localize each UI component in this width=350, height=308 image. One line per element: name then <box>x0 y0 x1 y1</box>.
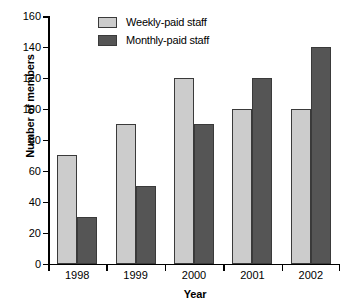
legend-label: Weekly-paid staff <box>126 16 207 28</box>
y-axis-tick-label: 40 <box>11 196 41 208</box>
y-axis-tick-label: 100 <box>11 103 41 115</box>
y-axis-tick-label: 20 <box>11 227 41 239</box>
legend-swatch <box>98 17 117 28</box>
x-axis-tick <box>223 265 225 271</box>
x-axis-tick <box>282 265 284 271</box>
y-axis-tick-label: 0 <box>11 258 41 270</box>
bar <box>77 217 97 263</box>
y-axis-tick-label: 160 <box>11 10 41 22</box>
bar <box>232 109 252 264</box>
y-axis-tick-label: 80 <box>11 134 41 146</box>
x-axis-tick <box>165 265 167 271</box>
legend-item: Monthly-paid staff <box>98 32 209 48</box>
x-axis-tick-label: 1999 <box>123 269 147 281</box>
x-axis-tick <box>106 265 108 271</box>
legend-item: Weekly-paid staff <box>98 14 209 30</box>
legend-swatch <box>98 35 117 46</box>
y-axis-tick <box>43 202 48 204</box>
bar <box>116 124 136 263</box>
x-axis-tick <box>48 265 50 271</box>
x-axis-tick <box>339 265 341 271</box>
bar <box>136 186 156 263</box>
y-axis-tick <box>43 78 48 80</box>
bar <box>57 155 77 263</box>
bar <box>311 47 331 264</box>
bar-chart: Number of members 020406080100120140160 … <box>0 0 350 308</box>
bar <box>291 109 311 264</box>
x-axis-tick-label: 1998 <box>65 269 89 281</box>
x-axis-title: Year <box>45 288 345 300</box>
x-axis-tick-label: 2001 <box>240 269 264 281</box>
y-axis-tick <box>43 140 48 142</box>
y-axis-tick <box>43 233 48 235</box>
y-axis-line <box>48 16 50 265</box>
y-axis-tick-label: 140 <box>11 41 41 53</box>
y-axis-tick-label: 60 <box>11 165 41 177</box>
y-axis-tick-label: 120 <box>11 72 41 84</box>
bar <box>252 78 272 264</box>
y-axis-tick <box>43 16 48 18</box>
legend-label: Monthly-paid staff <box>126 34 209 46</box>
x-axis-tick-label: 2002 <box>299 269 323 281</box>
y-axis-tick <box>43 47 48 49</box>
bar <box>174 78 194 264</box>
bar <box>194 124 214 263</box>
y-axis-tick <box>43 171 48 173</box>
x-axis-tick-label: 2000 <box>182 269 206 281</box>
plot-area: 020406080100120140160 <box>48 16 340 265</box>
y-axis-tick <box>43 109 48 111</box>
chart-legend: Weekly-paid staffMonthly-paid staff <box>98 14 209 50</box>
x-axis-line <box>48 264 340 266</box>
